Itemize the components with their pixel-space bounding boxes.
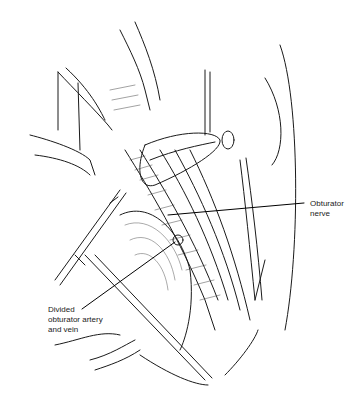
leader-obturator-nerve — [168, 203, 304, 215]
retractor-blade — [85, 255, 205, 380]
leader-divided-artery-vein — [82, 242, 175, 309]
label-obturator-nerve: Obturator nerve — [310, 199, 344, 219]
abdominal-wall-contour — [280, 45, 296, 330]
anatomical-illustration — [0, 0, 361, 401]
forceps — [55, 190, 120, 280]
label-divided-obturator-artery-vein: Divided obturator artery and vein — [48, 305, 103, 335]
